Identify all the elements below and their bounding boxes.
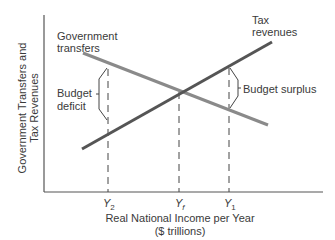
budget-surplus-bracket	[230, 68, 238, 108]
budget-deficit-label: Budget	[57, 87, 92, 99]
tick-yf: Yf	[175, 197, 185, 212]
tick-y1: Y1	[224, 197, 236, 212]
x-axis-label: Real National Income per Year	[105, 212, 255, 224]
y-axis-label-2: Tax Revenues	[28, 73, 40, 143]
budget-deficit-bracket	[99, 68, 107, 120]
government-transfers-label: Government	[57, 30, 118, 42]
budget-diagram: Government transfers Tax revenues Budget…	[0, 0, 335, 240]
budget-deficit-label-2: deficit	[57, 100, 86, 112]
tick-y2: Y2	[103, 197, 115, 212]
government-transfers-curve	[83, 53, 268, 125]
tax-revenues-curve	[82, 42, 272, 149]
tax-revenues-label: Tax	[252, 14, 270, 26]
y-axis-label: Government Transfers and	[16, 43, 28, 174]
tax-revenues-label-2: revenues	[252, 26, 298, 38]
budget-surplus-label: Budget surplus	[243, 83, 317, 95]
x-axis-label-2: ($ trillions)	[155, 225, 206, 237]
government-transfers-label-2: transfers	[57, 42, 100, 54]
